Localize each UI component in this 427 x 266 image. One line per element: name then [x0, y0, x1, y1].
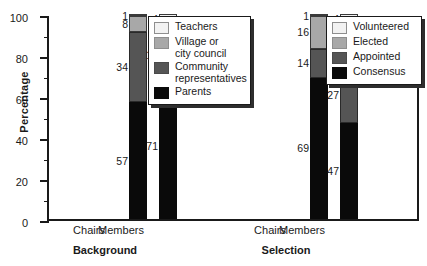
bar-segment-value-label: 27 — [327, 89, 339, 101]
bar-segment-value-label: 1 — [122, 10, 128, 22]
y-tick-major: 20 — [40, 180, 49, 182]
legend-item-label: Volunteered — [353, 21, 409, 33]
bar-background-chairs: 573481 — [129, 14, 147, 219]
bar-segment-value-label: 34 — [116, 61, 128, 73]
bar-segment-background-chairs-teachers: 1 — [129, 14, 147, 16]
legend-swatch-icon — [154, 87, 169, 99]
legend-swatch-icon — [332, 37, 347, 49]
legend-swatch-icon — [332, 52, 347, 64]
category-label-members: Members — [98, 224, 144, 236]
legend-swatch-icon — [154, 37, 169, 49]
category-label-members: Members — [279, 224, 325, 236]
y-tick-minor — [44, 201, 49, 202]
legend-background: TeachersVillage or city councilCommunity… — [148, 16, 251, 105]
legend-item-label: Teachers — [175, 21, 218, 33]
legend-item-label: Parents — [175, 86, 211, 98]
legend-item-teachers[interactable]: Teachers — [154, 21, 244, 34]
y-tick-label: 100 — [10, 12, 28, 24]
legend-swatch-icon — [154, 22, 169, 34]
bar-segment-value-label: 16 — [297, 26, 309, 38]
y-tick-minor — [44, 119, 49, 120]
bar-segment-background-chairs-village-or-city-council: 8 — [129, 16, 147, 32]
legend-item-label: Community representatives — [175, 61, 247, 84]
legend-item-consensus[interactable]: Consensus — [332, 66, 415, 79]
y-tick-label: 80 — [16, 53, 28, 65]
y-tick-label: 0 — [22, 217, 28, 229]
y-tick-major: 100 — [40, 16, 49, 18]
bar-segment-value-label: 1 — [303, 10, 309, 22]
bar-segment-value-label: 57 — [116, 155, 128, 167]
bar-segment-value-label: 14 — [297, 57, 309, 69]
y-tick-minor — [44, 37, 49, 38]
legend-swatch-icon — [154, 62, 169, 74]
y-tick-label: 60 — [16, 94, 28, 106]
group-label-background: Background — [73, 244, 137, 256]
bar-segment-value-label: 71 — [146, 140, 158, 152]
y-tick-minor — [44, 78, 49, 79]
y-tick-major: 60 — [40, 98, 49, 100]
legend-item-parents[interactable]: Parents — [154, 86, 244, 99]
legend-item-label: Consensus — [353, 66, 406, 78]
stacked-bar-chart-figure: Percentage 02040608010057348171187469141… — [0, 0, 427, 266]
legend-selection: VolunteeredElectedAppointedConsensus — [326, 16, 422, 85]
y-tick-label: 40 — [16, 135, 28, 147]
legend-item-volunteered[interactable]: Volunteered — [332, 21, 415, 34]
legend-swatch-icon — [332, 67, 347, 79]
y-tick-label: 20 — [16, 176, 28, 188]
y-tick-major: 40 — [40, 139, 49, 141]
bar-segment-background-chairs-parents: 57 — [129, 102, 147, 219]
bar-segment-value-label: 69 — [297, 142, 309, 154]
legend-item-elected[interactable]: Elected — [332, 36, 415, 49]
legend-item-label: Appointed — [353, 51, 400, 63]
legend-item-appointed[interactable]: Appointed — [332, 51, 415, 64]
legend-item-label: Elected — [353, 36, 388, 48]
y-tick-minor — [44, 160, 49, 161]
legend-item-village-or-city-council[interactable]: Village or city council — [154, 36, 244, 59]
bar-segment-selection-chairs-consensus: 69 — [310, 78, 328, 219]
legend-item-community-representatives[interactable]: Community representatives — [154, 61, 244, 84]
bar-segment-selection-members-consensus: 47 — [340, 123, 358, 219]
bar-segment-value-label: 47 — [327, 165, 339, 177]
legend-swatch-icon — [332, 22, 347, 34]
legend-item-label: Village or city council — [175, 36, 226, 59]
y-tick-major: 80 — [40, 57, 49, 59]
group-label-selection: Selection — [262, 244, 311, 256]
bar-segment-background-chairs-community-representatives: 34 — [129, 32, 147, 102]
y-tick-major: 0 — [40, 221, 49, 223]
